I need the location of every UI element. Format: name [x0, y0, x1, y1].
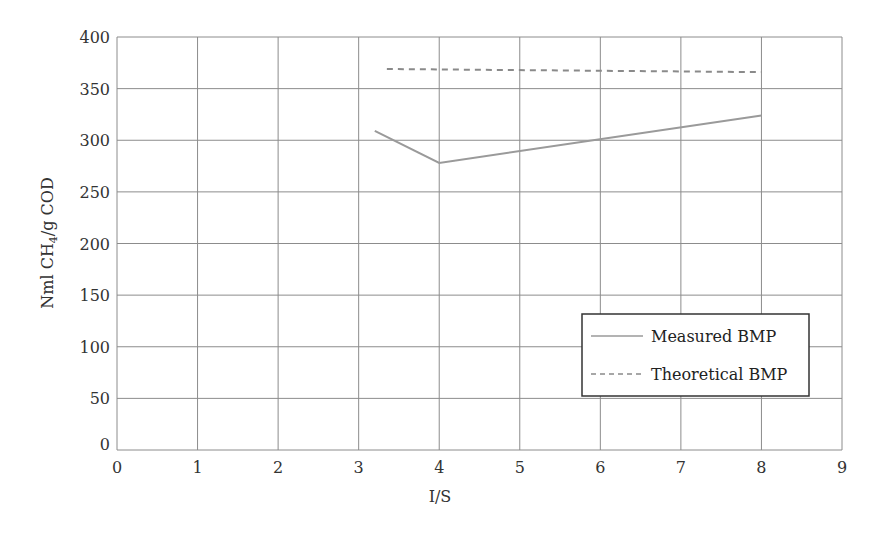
x-axis-label: I/S: [429, 487, 452, 506]
y-tick-label: 250: [79, 183, 110, 202]
legend: Measured BMP Theoretical BMP: [582, 314, 809, 396]
y-tick-label: 150: [79, 286, 110, 305]
y-tick-label: 300: [79, 131, 110, 150]
legend-item-measured: Measured BMP: [651, 327, 776, 346]
x-tick-labels: 0123456789: [112, 458, 847, 477]
y-tick-label: 350: [79, 80, 110, 99]
x-tick-label: 9: [837, 458, 847, 477]
x-tick-label: 3: [354, 458, 364, 477]
y-tick-label: 50: [90, 389, 110, 408]
y-tick-label: 100: [79, 338, 110, 357]
series-line-measured-bmp: [375, 115, 762, 162]
y-axis-label-subscript: 4: [47, 236, 60, 243]
x-tick-label: 5: [515, 458, 525, 477]
x-tick-label: 7: [676, 458, 686, 477]
x-tick-label: 6: [595, 458, 605, 477]
x-tick-label: 0: [112, 458, 122, 477]
x-tick-label: 4: [434, 458, 444, 477]
x-tick-label: 8: [756, 458, 766, 477]
legend-item-theoretical: Theoretical BMP: [651, 365, 788, 384]
series-lines: [375, 69, 762, 163]
x-tick-label: 2: [273, 458, 283, 477]
x-tick-label: 1: [192, 458, 202, 477]
chart: 050100150200250300350400 0123456789 I/S …: [0, 0, 879, 542]
series-line-theoretical-bmp: [387, 69, 762, 72]
y-axis-label-pre: Nml CH: [38, 243, 57, 309]
y-tick-label: 200: [79, 235, 110, 254]
y-axis-label-post: /g COD: [38, 177, 57, 236]
y-axis-label: Nml CH4/g COD: [38, 177, 60, 308]
y-tick-label: 400: [79, 28, 110, 47]
y-tick-label: 0: [100, 435, 110, 454]
y-tick-labels: 050100150200250300350400: [79, 28, 110, 454]
